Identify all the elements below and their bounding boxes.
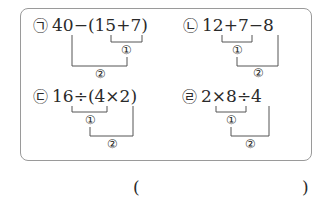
expression-d-text: 2×8÷4 [201, 86, 262, 106]
answer-open-paren: ( [133, 177, 140, 197]
expression-b-text: 12+7−8 [202, 15, 274, 35]
step2-marker-d: ② [245, 138, 256, 150]
step1-marker-d: ① [226, 114, 237, 126]
answer-close-paren: ) [302, 177, 309, 197]
step1-marker-b: ① [232, 44, 243, 56]
answer-blank[interactable] [145, 178, 300, 198]
expression-a-text: 40−(15+7) [52, 15, 148, 35]
expression-b: ㉡12+7−8 [183, 15, 274, 36]
label-symbol-b: ㉡ [183, 17, 198, 35]
expression-a: ㉠40−(15+7) [33, 15, 148, 36]
step2-marker-b: ② [253, 67, 264, 79]
label-symbol-c: ㉢ [33, 88, 48, 106]
expression-c: ㉢16÷(4×2) [33, 86, 137, 107]
label-symbol-a: ㉠ [33, 17, 48, 35]
expression-d: ㉣2×8÷4 [182, 86, 262, 107]
expression-c-text: 16÷(4×2) [52, 86, 137, 106]
step2-marker-c: ② [107, 138, 118, 150]
step1-marker-c: ① [85, 114, 96, 126]
step1-marker-a: ① [121, 44, 132, 56]
label-symbol-d: ㉣ [182, 88, 197, 106]
step2-marker-a: ② [95, 68, 106, 80]
